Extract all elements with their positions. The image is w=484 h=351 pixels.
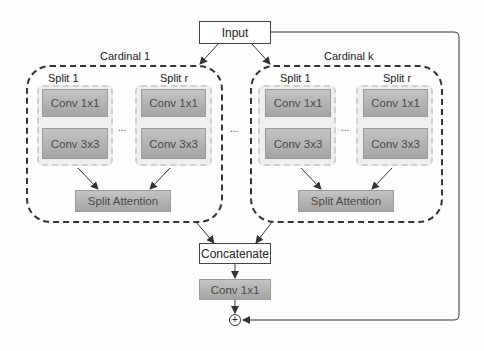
cardinal-k-split-r-conv1x1: Conv 1x1 <box>363 89 428 117</box>
cardinal-k-split-r-conv3x3: Conv 3x3 <box>363 128 428 159</box>
cardinal-k-label: Cardinal k <box>324 50 374 62</box>
conv-label: Conv 3x3 <box>371 138 420 150</box>
conv-label: Conv 3x3 <box>149 138 198 150</box>
cardinal-1-split-1-label: Split 1 <box>48 72 79 84</box>
final-conv1x1-node: Conv 1x1 <box>199 279 271 300</box>
conv-label: Conv 1x1 <box>51 97 100 109</box>
cardinal-k-split-1-conv3x3: Conv 3x3 <box>265 128 331 159</box>
input-node: Input <box>199 21 271 44</box>
cardinal-1-split-r-conv1x1: Conv 1x1 <box>141 89 206 117</box>
split-attention-label: Split Attention <box>311 195 381 207</box>
cardinal-1-split-attention: Split Attention <box>75 190 171 212</box>
conv-label: Conv 1x1 <box>274 97 323 109</box>
cardinals-ellipsis: ... <box>230 123 238 134</box>
cardinal-k-splits-ellipsis: ... <box>341 122 349 133</box>
cardinal-1-label: Cardinal 1 <box>100 50 150 62</box>
final-conv-label: Conv 1x1 <box>211 284 260 296</box>
cardinal-k-split-attention: Split Attention <box>298 190 394 212</box>
cardinal-k-split-r-label: Split r <box>383 72 411 84</box>
cardinal-k-split-1-label: Split 1 <box>280 72 311 84</box>
cardinal-k-split-1-conv1x1: Conv 1x1 <box>265 89 331 117</box>
concatenate-node: Concatenate <box>199 243 271 264</box>
cardinal-1-split-r-conv3x3: Conv 3x3 <box>141 128 206 159</box>
conv-label: Conv 3x3 <box>274 138 323 150</box>
conv-label: Conv 1x1 <box>149 97 198 109</box>
cardinal-1-splits-ellipsis: ... <box>118 122 126 133</box>
add-icon: + <box>229 314 241 326</box>
cardinal-1-split-r-label: Split r <box>160 72 188 84</box>
conv-label: Conv 1x1 <box>371 97 420 109</box>
concatenate-label: Concatenate <box>201 247 269 261</box>
split-attention-label: Split Attention <box>88 195 158 207</box>
conv-label: Conv 3x3 <box>51 138 100 150</box>
cardinal-1-split-1-conv1x1: Conv 1x1 <box>42 89 108 117</box>
cardinal-1-split-1-conv3x3: Conv 3x3 <box>42 128 108 159</box>
input-label: Input <box>222 26 249 40</box>
